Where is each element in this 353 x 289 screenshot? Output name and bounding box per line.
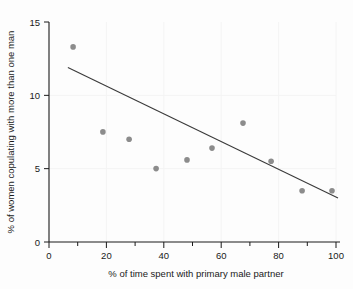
data-point[interactable] — [100, 129, 106, 135]
x-tick-label-60: 60 — [216, 250, 227, 261]
x-tick-label-100: 100 — [328, 250, 344, 261]
y-tick-label-10: 10 — [29, 90, 40, 101]
data-point[interactable] — [70, 44, 76, 50]
data-point[interactable] — [209, 145, 215, 151]
y-tick-label-0: 0 — [35, 237, 40, 248]
x-axis-title: % of time spent with primary male partne… — [108, 268, 283, 279]
data-point[interactable] — [240, 120, 246, 126]
y-tick-label-15: 15 — [29, 17, 40, 28]
y-axis-title: % of women copulating with more than one… — [5, 31, 16, 234]
x-tick-label-80: 80 — [273, 250, 284, 261]
data-point[interactable] — [184, 157, 190, 163]
x-tick-label-20: 20 — [101, 250, 112, 261]
data-point[interactable] — [329, 188, 335, 194]
data-point[interactable] — [153, 166, 159, 172]
scatter-chart-figure: 0 5 10 15 0 20 40 60 80 100 % of time sp… — [0, 0, 353, 289]
chart-canvas: 0 5 10 15 0 20 40 60 80 100 % of time sp… — [0, 0, 353, 289]
x-tick-label-0: 0 — [46, 250, 51, 261]
data-point[interactable] — [126, 137, 132, 143]
x-tick-label-40: 40 — [159, 250, 170, 261]
data-point[interactable] — [268, 159, 274, 165]
y-tick-label-5: 5 — [35, 163, 40, 174]
chart-background — [0, 0, 353, 289]
data-point[interactable] — [299, 188, 305, 194]
